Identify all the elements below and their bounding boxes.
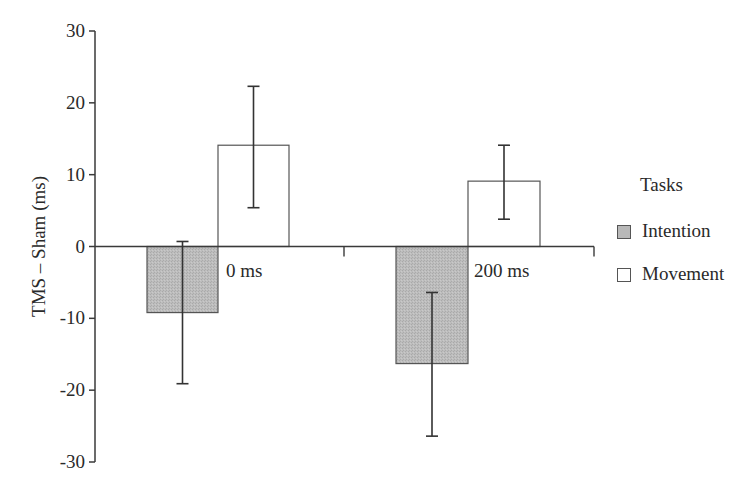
y-tick-label: -30 — [60, 451, 85, 472]
legend-label: Intention — [642, 220, 711, 242]
y-tick-label: 10 — [66, 164, 85, 185]
category-label: 200 ms — [474, 260, 529, 281]
legend-label: Movement — [642, 263, 724, 285]
intention-swatch — [617, 225, 631, 239]
y-axis: 3020100-10-20-30 — [60, 20, 95, 472]
y-axis-label: TMS – Sham (ms) — [28, 176, 50, 317]
legend-title: Tasks — [640, 174, 683, 196]
y-tick-label: -20 — [60, 379, 85, 400]
movement-swatch — [617, 268, 631, 282]
category-label: 0 ms — [226, 260, 262, 281]
y-tick-label: 30 — [66, 20, 85, 41]
y-tick-label: -10 — [60, 307, 85, 328]
bar-chart: 3020100-10-20-30 TMS – Sham (ms) 0 ms200… — [0, 0, 756, 494]
category-annotations: 0 ms200 ms — [226, 260, 529, 281]
y-tick-label: 20 — [66, 92, 85, 113]
y-tick-label: 0 — [76, 236, 86, 257]
y-axis-title: TMS – Sham (ms) — [28, 176, 50, 317]
